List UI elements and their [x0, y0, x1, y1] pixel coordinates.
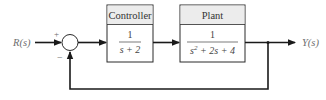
plus-sign: +	[54, 29, 59, 39]
plant-block: Plant 1 s2 + 2s + 4	[180, 5, 245, 62]
controller-title: Controller	[108, 10, 152, 21]
output-label: Y(s)	[302, 37, 319, 49]
block-diagram: R(s) + − Controller 1 s + 2 Plant 1 s2 +…	[0, 0, 326, 100]
plant-numerator: 1	[210, 29, 215, 40]
controller-block: Controller 1 s + 2	[107, 5, 153, 62]
controller-denominator: s + 2	[120, 44, 141, 55]
summing-junction	[62, 35, 78, 51]
controller-numerator: 1	[128, 29, 133, 40]
plant-denominator: s2 + 2s + 4	[190, 44, 235, 56]
input-label: R(s)	[12, 37, 31, 49]
plant-title: Plant	[202, 10, 224, 21]
minus-sign: −	[57, 52, 63, 63]
